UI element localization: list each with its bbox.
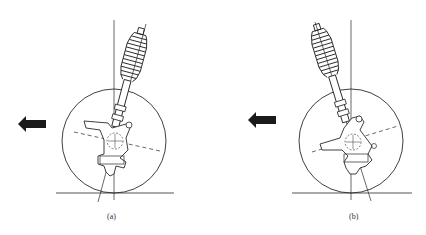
panel-a	[18, 20, 174, 202]
panel-b	[248, 20, 412, 201]
panel-a-caption: (a)	[107, 212, 116, 221]
panel-b-caption: (b)	[349, 212, 358, 221]
steering-knuckle	[84, 121, 132, 176]
steering-knuckle	[320, 116, 377, 174]
travel-direction-arrow-icon	[18, 116, 46, 132]
travel-direction-arrow-icon	[248, 112, 276, 128]
suspension-strut-figure: (a) (b)	[0, 0, 426, 235]
